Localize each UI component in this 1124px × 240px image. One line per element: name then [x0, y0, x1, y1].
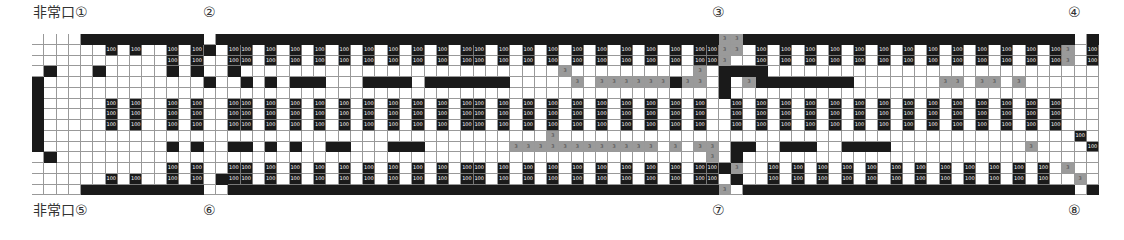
empty-cell[interactable]: [118, 163, 130, 174]
empty-cell[interactable]: [572, 152, 584, 163]
reserved-cell[interactable]: 3: [621, 77, 633, 88]
empty-cell[interactable]: [584, 45, 596, 56]
empty-cell[interactable]: [596, 131, 608, 142]
seat-cell[interactable]: 100: [731, 109, 743, 120]
empty-cell[interactable]: [535, 56, 547, 67]
empty-cell[interactable]: [707, 66, 719, 77]
seat-cell[interactable]: 100: [707, 56, 719, 67]
seat-cell[interactable]: 100: [792, 163, 804, 174]
empty-cell[interactable]: [1026, 163, 1038, 174]
seat-cell[interactable]: 100: [388, 45, 400, 56]
empty-cell[interactable]: [204, 131, 216, 142]
empty-cell[interactable]: [486, 45, 498, 56]
empty-cell[interactable]: [964, 152, 976, 163]
empty-cell[interactable]: [204, 163, 216, 174]
empty-cell[interactable]: [461, 66, 473, 77]
seat-cell[interactable]: 100: [290, 163, 302, 174]
seat-cell[interactable]: 100: [314, 120, 326, 131]
empty-cell[interactable]: [1001, 142, 1013, 153]
seat-cell[interactable]: 100: [756, 99, 768, 110]
empty-cell[interactable]: [743, 163, 755, 174]
empty-cell[interactable]: [106, 131, 118, 142]
empty-cell[interactable]: [302, 120, 314, 131]
seat-cell[interactable]: 100: [388, 99, 400, 110]
empty-cell[interactable]: [719, 131, 731, 142]
empty-cell[interactable]: [547, 66, 559, 77]
empty-cell[interactable]: [449, 163, 461, 174]
reserved-cell[interactable]: 3: [1062, 56, 1074, 67]
empty-cell[interactable]: [44, 45, 56, 56]
empty-cell[interactable]: [449, 131, 461, 142]
empty-cell[interactable]: [940, 120, 952, 131]
empty-cell[interactable]: [682, 45, 694, 56]
seat-cell[interactable]: 100: [891, 163, 903, 174]
empty-cell[interactable]: [805, 163, 817, 174]
seat-cell[interactable]: 100: [412, 56, 424, 67]
reserved-cell[interactable]: 3: [547, 142, 559, 153]
empty-cell[interactable]: [204, 152, 216, 163]
seat-cell[interactable]: 100: [1038, 174, 1050, 185]
seat-cell[interactable]: 100: [241, 120, 253, 131]
empty-cell[interactable]: [461, 142, 473, 153]
empty-cell[interactable]: [1001, 88, 1013, 99]
empty-cell[interactable]: [326, 77, 338, 88]
empty-cell[interactable]: [486, 174, 498, 185]
empty-cell[interactable]: [952, 131, 964, 142]
empty-cell[interactable]: [719, 120, 731, 131]
empty-cell[interactable]: [142, 152, 154, 163]
seat-cell[interactable]: 100: [412, 99, 424, 110]
empty-cell[interactable]: [400, 174, 412, 185]
seat-cell[interactable]: 100: [523, 109, 535, 120]
empty-cell[interactable]: [69, 34, 81, 45]
seat-cell[interactable]: 100: [621, 99, 633, 110]
seat-cell[interactable]: 100: [388, 56, 400, 67]
empty-cell[interactable]: [375, 66, 387, 77]
empty-cell[interactable]: [388, 152, 400, 163]
empty-cell[interactable]: [891, 109, 903, 120]
empty-cell[interactable]: [1001, 131, 1013, 142]
seat-cell[interactable]: 100: [952, 120, 964, 131]
empty-cell[interactable]: [461, 131, 473, 142]
seat-cell[interactable]: 100: [780, 120, 792, 131]
empty-cell[interactable]: [204, 142, 216, 153]
empty-cell[interactable]: [69, 174, 81, 185]
empty-cell[interactable]: [400, 109, 412, 120]
empty-cell[interactable]: [400, 66, 412, 77]
empty-cell[interactable]: [351, 152, 363, 163]
empty-cell[interactable]: [1062, 77, 1074, 88]
seat-cell[interactable]: 100: [1050, 45, 1062, 56]
seat-cell[interactable]: 100: [878, 45, 890, 56]
empty-cell[interactable]: [768, 142, 780, 153]
empty-cell[interactable]: [989, 66, 1001, 77]
seat-cell[interactable]: 100: [1026, 120, 1038, 131]
seat-cell[interactable]: 100: [989, 174, 1001, 185]
empty-cell[interactable]: [486, 142, 498, 153]
empty-cell[interactable]: [351, 163, 363, 174]
seat-cell[interactable]: 100: [412, 120, 424, 131]
seat-cell[interactable]: 100: [339, 45, 351, 56]
empty-cell[interactable]: [351, 99, 363, 110]
empty-cell[interactable]: [1062, 109, 1074, 120]
empty-cell[interactable]: [891, 66, 903, 77]
empty-cell[interactable]: [940, 152, 952, 163]
empty-cell[interactable]: [633, 66, 645, 77]
empty-cell[interactable]: [535, 152, 547, 163]
empty-cell[interactable]: [1038, 45, 1050, 56]
empty-cell[interactable]: [1075, 185, 1087, 196]
empty-cell[interactable]: [1026, 174, 1038, 185]
empty-cell[interactable]: [633, 56, 645, 67]
seat-cell[interactable]: 100: [547, 109, 559, 120]
empty-cell[interactable]: [461, 88, 473, 99]
reserved-cell[interactable]: 3: [621, 142, 633, 153]
empty-cell[interactable]: [792, 56, 804, 67]
empty-cell[interactable]: [559, 77, 571, 88]
empty-cell[interactable]: [69, 185, 81, 196]
seat-cell[interactable]: 100: [106, 174, 118, 185]
empty-cell[interactable]: [891, 152, 903, 163]
empty-cell[interactable]: [1062, 131, 1074, 142]
empty-cell[interactable]: [44, 185, 56, 196]
seat-cell[interactable]: 100: [731, 120, 743, 131]
empty-cell[interactable]: [167, 88, 179, 99]
empty-cell[interactable]: [155, 109, 167, 120]
empty-cell[interactable]: [118, 66, 130, 77]
